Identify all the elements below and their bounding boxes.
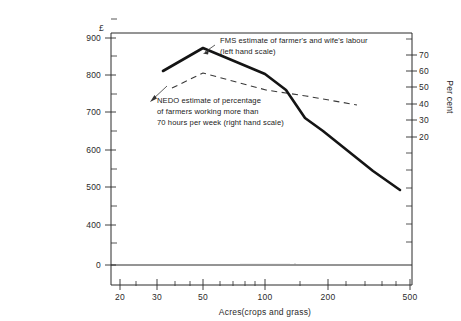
xtick-label-30: 30 bbox=[152, 292, 162, 302]
chart-svg: £ 900 800 700 600 500 400 0 7 bbox=[0, 0, 461, 321]
fms-annotation-line-1: FMS estimate of farmer's and wife's labo… bbox=[220, 36, 368, 45]
ytick-label-left-600: 600 bbox=[86, 145, 101, 155]
nedo-annotation-line-3: 70 hours per week (right hand scale) bbox=[157, 118, 284, 127]
ytick-label-left-400: 400 bbox=[86, 220, 101, 230]
ytick-label-right-20: 20 bbox=[419, 132, 429, 142]
ytick-label-left-0: 0 bbox=[96, 260, 101, 270]
ytick-label-right-60: 60 bbox=[419, 66, 429, 76]
ytick-label-left-500: 500 bbox=[86, 182, 101, 192]
y-axis-left-unit: £ bbox=[99, 23, 104, 33]
x-axis-title: Acres(crops and grass) bbox=[219, 307, 311, 317]
xtick-label-500: 500 bbox=[403, 292, 418, 302]
ytick-label-left-700: 700 bbox=[86, 107, 101, 117]
ytick-label-right-40: 40 bbox=[419, 99, 429, 109]
ytick-label-right-70: 70 bbox=[419, 50, 429, 60]
chart-figure: £ 900 800 700 600 500 400 0 7 bbox=[0, 0, 461, 321]
y-axis-right-title: Per cent bbox=[445, 80, 455, 114]
ytick-label-right-50: 50 bbox=[419, 82, 429, 92]
fms-annotation-line-2: (left hand scale) bbox=[220, 47, 276, 56]
xtick-label-100: 100 bbox=[258, 292, 273, 302]
xtick-label-200: 200 bbox=[321, 292, 336, 302]
nedo-annotation-line-2: of farmers working more than bbox=[157, 107, 259, 116]
ytick-label-left-800: 800 bbox=[86, 70, 101, 80]
xtick-label-20: 20 bbox=[115, 292, 125, 302]
nedo-annotation-line-1: NEDO estimate of percentage bbox=[157, 96, 261, 105]
ytick-label-left-900: 900 bbox=[86, 33, 101, 43]
ytick-label-right-30: 30 bbox=[419, 115, 429, 125]
xtick-label-50: 50 bbox=[198, 292, 208, 302]
